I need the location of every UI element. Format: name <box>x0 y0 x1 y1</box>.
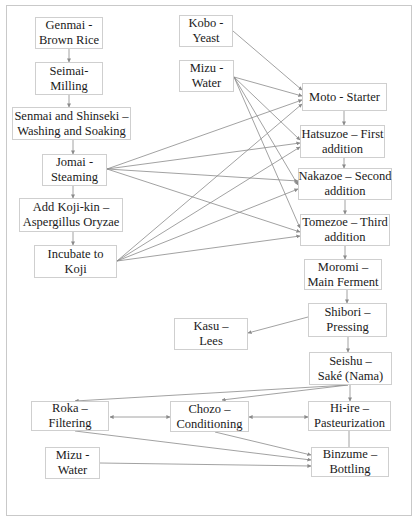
node-chozo: Chozo –Conditioning <box>170 401 249 432</box>
node-hatsuzoe: Hatsuzoe – Firstaddition <box>300 125 385 158</box>
node-shibori: Shibori –Pressing <box>308 303 387 337</box>
node-senmai: Senmai and Shinseki –Washing and Soaking <box>12 107 131 140</box>
node-moto: Moto - Starter <box>302 83 387 111</box>
node-seimai: Seimai-Milling <box>35 62 103 95</box>
node-mizu-bottom: Mizu -Water <box>45 447 100 479</box>
node-seishu: Seishu –Saké (Nama) <box>309 352 392 385</box>
node-genmai: Genmai -Brown Rice <box>35 17 103 49</box>
node-jomai: Jomai -Steaming <box>42 154 107 186</box>
node-moromi: Moromi –Main Ferment <box>304 259 382 290</box>
node-hi-ire: Hi-ire –Pasteurization <box>308 401 391 431</box>
node-mizu-top: Mizu -Water <box>179 60 234 92</box>
node-roka: Roka –Filtering <box>31 401 109 431</box>
node-nakazoe: Nakazoe – Secondaddition <box>298 168 392 200</box>
node-add-koji-kin: Add Koji-kin –Aspergillus Oryzae <box>19 198 123 232</box>
node-tomezoe: Tomezoe – Thirdaddition <box>300 214 390 246</box>
node-incubate-koji: Incubate toKoji <box>34 245 117 278</box>
node-kobo: Kobo -Yeast <box>179 15 233 47</box>
node-kasu: Kasu –Lees <box>174 318 248 350</box>
node-binzume: Binzume –Bottling <box>311 447 389 477</box>
